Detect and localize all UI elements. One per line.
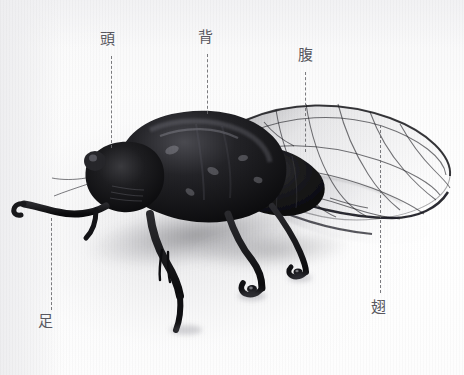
cicada-photograph	[0, 0, 464, 375]
annotation-label-back: 背	[198, 30, 213, 45]
hindleg	[228, 214, 262, 295]
leader-line-head	[111, 56, 112, 148]
leader-line-abdomen	[305, 72, 306, 152]
annotation-label-abdomen: 腹	[298, 48, 313, 63]
leader-line-leg	[51, 218, 52, 310]
legs	[14, 204, 306, 330]
antenna	[52, 178, 88, 196]
leader-line-back	[207, 54, 208, 114]
annotation-label-head: 頭	[100, 32, 115, 47]
foreleg	[14, 204, 106, 238]
head	[52, 142, 164, 212]
annotation-label-leg: 足	[38, 314, 53, 329]
figure-canvas: 頭 背 腹 翅 足	[0, 0, 464, 375]
midleg	[150, 214, 180, 330]
leader-line-wing	[380, 125, 381, 293]
annotation-label-wing: 翅	[371, 300, 386, 315]
